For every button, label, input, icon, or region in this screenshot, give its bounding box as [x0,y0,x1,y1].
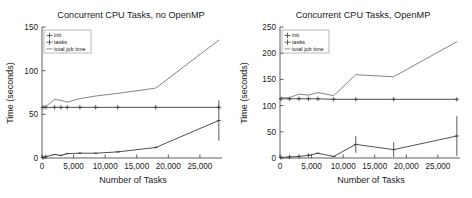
plot-series-group-right [279,42,459,160]
x-axis-ticks: 0 5,000 10,000 15,000 20,000 25,000 [278,155,451,172]
x-tick-label: 20,000 [156,162,181,171]
y-axis-label: Time (seconds) [5,62,15,124]
legend-item-tasks: tasks [285,39,306,45]
chart-legend: init tasks total job time [44,30,91,53]
x-tick-label: 0 [278,162,283,171]
x-tick-label: 25,000 [425,162,450,171]
legend-item-tasks: tasks [47,39,68,45]
chart-title: Concurrent CPU Tasks, OpenMP [296,10,431,20]
legend-label: init [292,32,300,38]
legend-label: tasks [292,39,305,45]
x-tick-label: 15,000 [362,162,387,171]
y-tick-label: 0 [271,154,276,163]
x-tick-label: 20,000 [394,162,419,171]
chart-svg-left: Concurrent CPU Tasks, no OpenMP 0 50 100… [0,0,236,198]
x-tick-label: 5,000 [301,162,322,171]
series-tasks [41,100,221,159]
chart-svg-right: Concurrent CPU Tasks, OpenMP 0 50 100 15… [236,0,472,198]
y-tick-label: 0 [33,154,38,163]
series-tasks [279,116,459,160]
x-axis-label: Number of Tasks [99,175,167,185]
y-tick-label: 150 [24,23,38,32]
x-tick-label: 5,000 [63,162,84,171]
figure-container: Concurrent CPU Tasks, no OpenMP 0 50 100… [0,0,472,198]
chart-panel-openmp: Concurrent CPU Tasks, OpenMP 0 50 100 15… [236,0,472,198]
series-init [279,97,459,102]
series-line [43,120,219,157]
x-axis-label: Number of Tasks [337,175,405,185]
y-tick-label: 50 [29,110,39,119]
y-tick-label: 200 [262,49,276,58]
y-tick-label: 150 [262,75,276,84]
x-tick-label: 15,000 [124,162,149,171]
y-tick-label: 50 [267,128,277,137]
legend-label: total job time [292,46,324,52]
series-init [41,105,221,109]
x-tick-label: 10,000 [93,162,118,171]
x-axis-ticks: 0 5,000 10,000 15,000 20,000 25,000 [40,155,213,172]
chart-legend: init tasks total job time [282,30,329,53]
y-tick-label: 100 [262,102,276,111]
x-tick-label: 25,000 [187,162,212,171]
chart-title: Concurrent CPU Tasks, no OpenMP [57,10,204,20]
x-tick-label: 0 [40,162,45,171]
chart-panel-no-openmp: Concurrent CPU Tasks, no OpenMP 0 50 100… [0,0,236,198]
y-tick-label: 100 [24,67,38,76]
series-line [281,136,457,157]
legend-label: total job time [54,46,86,52]
legend-label: tasks [54,39,67,45]
y-axis-label: Time (seconds) [239,62,249,124]
y-tick-label: 250 [262,23,276,32]
plot-series-group-left [41,40,221,160]
x-tick-label: 10,000 [331,162,356,171]
legend-label: init [54,32,62,38]
